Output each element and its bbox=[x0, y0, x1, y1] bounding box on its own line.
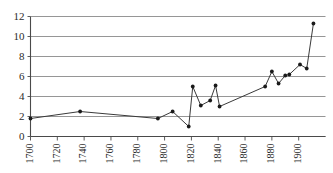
data-point-marker bbox=[214, 84, 218, 88]
data-point-marker bbox=[298, 63, 302, 67]
data-point-marker bbox=[156, 117, 160, 121]
y-tick-label: 8 bbox=[19, 50, 25, 62]
x-tick-label: 1780 bbox=[131, 144, 142, 164]
line-chart: 0246810121700172017401760178018001820184… bbox=[0, 0, 333, 173]
x-tick-label: 1740 bbox=[77, 144, 88, 164]
data-point-marker bbox=[78, 110, 82, 114]
data-point-marker bbox=[283, 74, 287, 78]
data-point-marker bbox=[218, 105, 222, 109]
y-tick-label: 0 bbox=[19, 130, 25, 142]
y-tick-label: 12 bbox=[14, 10, 25, 22]
x-tick-label: 1840 bbox=[212, 144, 223, 164]
x-tick-label: 1860 bbox=[238, 144, 249, 164]
data-point-marker bbox=[287, 73, 291, 77]
chart-canvas: 0246810121700172017401760178018001820184… bbox=[0, 0, 333, 173]
data-point-marker bbox=[187, 125, 191, 129]
data-point-marker bbox=[305, 67, 309, 71]
y-tick-label: 4 bbox=[19, 90, 25, 102]
x-tick-label: 1880 bbox=[265, 144, 276, 164]
data-point-marker bbox=[199, 104, 203, 108]
y-tick-label: 10 bbox=[14, 30, 26, 42]
data-point-marker bbox=[263, 85, 267, 89]
data-point-marker bbox=[171, 110, 175, 114]
data-point-marker bbox=[277, 82, 281, 86]
data-point-marker bbox=[312, 22, 316, 26]
data-point-marker bbox=[208, 99, 212, 103]
x-tick-label: 1800 bbox=[158, 144, 169, 164]
x-tick-label: 1820 bbox=[185, 144, 196, 164]
y-tick-label: 2 bbox=[19, 110, 25, 122]
y-tick-label: 6 bbox=[19, 70, 25, 82]
x-tick-label: 1720 bbox=[51, 144, 62, 164]
data-point-marker bbox=[29, 117, 33, 121]
x-tick-label: 1760 bbox=[104, 144, 115, 164]
x-tick-label: 1900 bbox=[292, 144, 303, 164]
data-point-marker bbox=[191, 85, 195, 89]
data-point-marker bbox=[270, 70, 274, 74]
x-tick-label: 1700 bbox=[24, 144, 35, 164]
